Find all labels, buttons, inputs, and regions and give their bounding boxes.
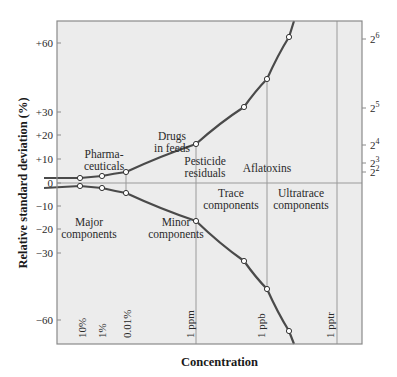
- y-tick-label: +20: [36, 129, 54, 141]
- annotation-pesticide: Pesticide: [184, 155, 226, 167]
- annotation-minor: Minor: [162, 216, 191, 228]
- x-tick-label: 1 ppb: [255, 313, 267, 338]
- data-point-upper: [99, 173, 104, 178]
- right-tick-label: 22: [370, 164, 380, 178]
- y-tick-label: +10: [36, 153, 54, 165]
- annotation-trace: Trace: [218, 187, 244, 199]
- annotation-ultratrace: components: [273, 199, 329, 212]
- y-tick-label: +60: [36, 37, 54, 49]
- annotation-major: components: [61, 228, 117, 241]
- y-tick-label: −10: [36, 200, 54, 212]
- x-tick-label: 1%: [96, 323, 108, 338]
- x-axis-title: Concentration: [181, 355, 258, 369]
- data-point-lower: [99, 185, 104, 190]
- annotation-trace: components: [203, 199, 259, 212]
- horwitz-trumpet-chart: +60+30+20+100−10−20−30−60 2625242322 10%…: [0, 0, 397, 377]
- annotation-ultratrace: Ultratrace: [278, 187, 324, 199]
- data-point-lower: [264, 286, 269, 291]
- right-tick-label: 26: [370, 31, 380, 45]
- x-tick-label: 1 pptr: [324, 312, 336, 338]
- data-point-upper: [77, 175, 82, 180]
- data-point-upper: [264, 76, 269, 81]
- data-point-lower: [123, 190, 128, 195]
- annotation-aflatoxins: Aflatoxins: [243, 162, 292, 174]
- data-point-lower: [193, 218, 198, 223]
- x-tick-label: 0.01%: [121, 310, 133, 338]
- y-axis-title: Relative standard deviation (%): [16, 97, 30, 268]
- annotation-drugs: in feeds: [154, 142, 191, 154]
- data-point-upper: [123, 169, 128, 174]
- data-point-upper: [193, 141, 198, 146]
- right-tick-label: 24: [370, 137, 380, 151]
- data-point-upper: [241, 104, 246, 109]
- data-point-lower: [241, 258, 246, 263]
- x-tick-label: 10%: [76, 318, 88, 338]
- annotation-pharma: ceuticals: [84, 160, 125, 172]
- y-tick-label: −20: [36, 223, 54, 235]
- data-point-lower: [77, 183, 82, 188]
- y-tick-label: −30: [36, 247, 54, 259]
- annotation-pharma: Pharma-: [85, 148, 124, 160]
- x-tick-label: 1 ppm: [184, 310, 196, 338]
- y-tick-label: −60: [36, 314, 54, 326]
- y-tick-label: +30: [36, 106, 54, 118]
- data-point-upper: [286, 34, 291, 39]
- annotation-pesticide: residuals: [185, 167, 226, 179]
- right-tick-label: 25: [370, 100, 380, 114]
- y-tick-label: 0: [48, 177, 54, 189]
- annotation-minor: components: [148, 228, 204, 241]
- data-point-lower: [286, 328, 291, 333]
